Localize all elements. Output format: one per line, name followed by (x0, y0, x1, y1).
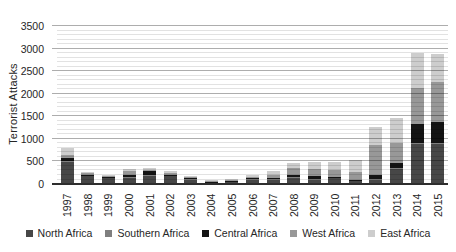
stacked-bar-chart: Terrorist Attacks 0500100015002000250030… (0, 0, 456, 252)
x-tick-label-2010: 2010 (329, 194, 341, 217)
x-axis-tick-labels: 1997199819992000200120022003200420052006… (0, 0, 456, 252)
x-tick-label-2015: 2015 (432, 194, 444, 217)
x-tick-label-2006: 2006 (247, 194, 259, 217)
x-tick-label-1999: 1999 (102, 194, 114, 217)
x-tick-label-2014: 2014 (411, 194, 423, 217)
x-tick-label-2013: 2013 (391, 194, 403, 217)
x-tick-label-2001: 2001 (144, 194, 156, 217)
x-tick-label-2000: 2000 (123, 194, 135, 217)
x-tick-label-2004: 2004 (205, 194, 217, 217)
x-tick-label-2007: 2007 (267, 194, 279, 217)
x-tick-label-2002: 2002 (164, 194, 176, 217)
x-tick-label-2003: 2003 (185, 194, 197, 217)
x-axis-line (52, 183, 448, 185)
x-tick-label-2005: 2005 (226, 194, 238, 217)
x-tick-label-2009: 2009 (308, 194, 320, 217)
x-tick-label-1998: 1998 (82, 194, 94, 217)
x-tick-label-2012: 2012 (370, 194, 382, 217)
x-tick-label-1997: 1997 (61, 194, 73, 217)
x-tick-label-2008: 2008 (288, 194, 300, 217)
x-tick-label-2011: 2011 (349, 194, 361, 217)
